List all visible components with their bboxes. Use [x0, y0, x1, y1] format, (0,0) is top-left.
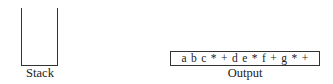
output-label: Output — [170, 66, 320, 80]
stack-label: Stack — [10, 66, 70, 80]
stack-container — [21, 8, 58, 66]
output-box: a b c * + d e * f + g * + — [170, 51, 320, 66]
